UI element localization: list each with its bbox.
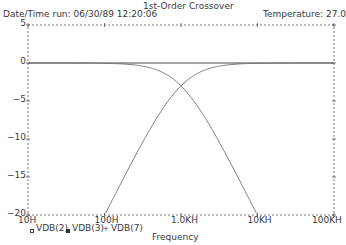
y-tick-label: −15 [2,171,26,180]
open-square-marker-icon [30,229,34,233]
plot-frame [28,25,334,215]
legend-label: VDB(2) [36,224,68,233]
legend-label: VDB(3) [72,224,104,233]
legend-item-vdb2: VDB(2) [30,224,68,233]
cross-marker-icon: + [103,226,109,233]
y-tick-label: 5 [2,19,26,28]
y-tick-label: 0 [2,57,26,66]
series-vdb7-line [106,63,334,213]
x-axis-title: Frequency [152,233,199,242]
x-tick-label: 10KH [248,216,272,225]
series-vdb3-line [28,63,256,213]
x-tick-label: 1.0KH [171,216,198,225]
legend-item-vdb3: VDB(3) [66,224,104,233]
legend-label: VDB(7) [111,224,143,233]
y-tick-label: −10 [2,133,26,142]
filled-square-marker-icon [66,229,70,233]
legend-item-vdb7: + VDB(7) [103,224,143,233]
x-tick-label: 100KH [312,216,342,225]
y-tick-label: −5 [2,95,26,104]
